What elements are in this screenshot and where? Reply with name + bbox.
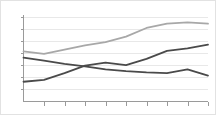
series-line-series-dark-rising	[24, 45, 209, 82]
series-group	[24, 22, 209, 81]
series-line-series-dark-declining	[24, 58, 209, 76]
line-chart-panel	[0, 0, 216, 115]
chart-canvas	[1, 1, 216, 115]
gridlines-group	[24, 18, 209, 90]
x-axis-ticks-group	[45, 102, 209, 106]
